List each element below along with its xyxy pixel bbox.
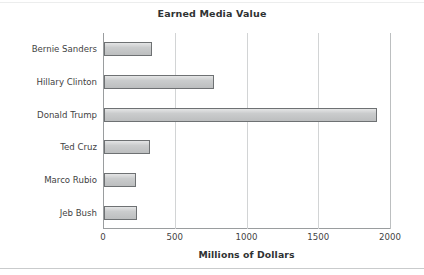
category-label-marco-rubio: Marco Rubio	[0, 167, 97, 193]
category-label-jeb-bush: Jeb Bush	[0, 200, 97, 226]
category-axis-labels: Bernie SandersHillary ClintonDonald Trum…	[0, 33, 97, 229]
bar-ted-cruz	[104, 140, 150, 154]
x-tick-label-2000: 2000	[379, 232, 401, 242]
category-label-bernie-sanders: Bernie Sanders	[0, 36, 97, 62]
x-tick-label-1000: 1000	[236, 232, 258, 242]
bar-bernie-sanders	[104, 42, 152, 56]
bar-donald-trump	[104, 108, 377, 122]
gridline-1000	[247, 33, 248, 229]
bar-marco-rubio	[104, 173, 136, 187]
x-tick-label-0: 0	[100, 232, 105, 242]
category-label-ted-cruz: Ted Cruz	[0, 134, 97, 160]
bar-hillary-clinton	[104, 75, 214, 89]
figure-bottom-rule	[0, 268, 424, 269]
x-tick-label-1500: 1500	[307, 232, 329, 242]
gridline-2000	[390, 33, 391, 229]
gridline-500	[175, 33, 176, 229]
gridline-1500	[318, 33, 319, 229]
category-label-hillary-clinton: Hillary Clinton	[0, 69, 97, 95]
category-label-donald-trump: Donald Trump	[0, 102, 97, 128]
x-tick-label-500: 500	[167, 232, 183, 242]
plot-area	[103, 33, 390, 229]
chart-title: Earned Media Value	[0, 8, 424, 19]
x-axis-title: Millions of Dollars	[103, 249, 390, 260]
bar-jeb-bush	[104, 206, 137, 220]
bar-chart-figure: Earned Media Value Bernie SandersHillary…	[0, 0, 424, 275]
x-axis-tick-labels: 0500100015002000	[103, 232, 390, 246]
figure-top-rule	[0, 2, 424, 3]
